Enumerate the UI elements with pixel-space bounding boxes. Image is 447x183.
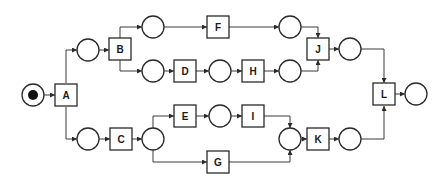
- transition-e[interactable]: E: [174, 105, 196, 127]
- place-p9[interactable]: [142, 128, 164, 150]
- place-p1[interactable]: [77, 39, 99, 61]
- place-p10[interactable]: [209, 105, 231, 127]
- arc-B-p4: [120, 60, 142, 71]
- transition-c[interactable]: C: [110, 128, 132, 150]
- transition-b[interactable]: B: [109, 38, 131, 60]
- transition-j[interactable]: J: [307, 38, 329, 60]
- place-p8[interactable]: [339, 38, 361, 60]
- place-p7[interactable]: [279, 60, 301, 82]
- petri-net-diagram: A B C D E F G H: [0, 0, 447, 183]
- transition-l[interactable]: L: [373, 83, 395, 105]
- place-p3[interactable]: [142, 16, 164, 38]
- place-p4[interactable]: [142, 60, 164, 82]
- transition-label: B: [116, 44, 123, 55]
- place-p6[interactable]: [279, 16, 301, 38]
- arc-A-p1: [66, 50, 77, 83]
- transition-g[interactable]: G: [207, 151, 229, 173]
- transition-label: J: [315, 44, 321, 55]
- place-p5[interactable]: [209, 60, 231, 82]
- transition-label: C: [117, 134, 124, 145]
- arc-A-p2: [66, 107, 77, 139]
- transition-f[interactable]: F: [207, 16, 229, 38]
- transition-label: F: [215, 22, 221, 33]
- transition-label: K: [314, 134, 322, 145]
- transition-label: L: [381, 89, 387, 100]
- transition-label: D: [181, 66, 188, 77]
- transition-label: I: [252, 111, 255, 122]
- arc-p12-L: [361, 106, 384, 139]
- arc-p8-L: [361, 49, 384, 83]
- transition-d[interactable]: D: [174, 60, 196, 82]
- transition-label: H: [249, 66, 256, 77]
- transition-k[interactable]: K: [307, 128, 329, 150]
- transition-a[interactable]: A: [55, 84, 77, 106]
- place-p11[interactable]: [279, 128, 301, 150]
- arc-B-p3: [120, 27, 142, 38]
- transition-label: G: [214, 157, 222, 168]
- transition-label: E: [182, 111, 189, 122]
- transition-h[interactable]: H: [242, 60, 264, 82]
- arc-G-p11: [229, 150, 290, 162]
- arc-p7-J: [301, 60, 318, 71]
- place-p12[interactable]: [339, 128, 361, 150]
- token-icon: [28, 90, 38, 100]
- place-p2[interactable]: [77, 128, 99, 150]
- place-end[interactable]: [405, 83, 427, 105]
- arc-p9-G: [153, 150, 207, 162]
- arc-p9-E: [153, 116, 174, 128]
- arc-I-p11: [264, 116, 290, 128]
- transition-label: A: [62, 90, 69, 101]
- arc-p6-J: [301, 27, 318, 38]
- transition-i[interactable]: I: [242, 105, 264, 127]
